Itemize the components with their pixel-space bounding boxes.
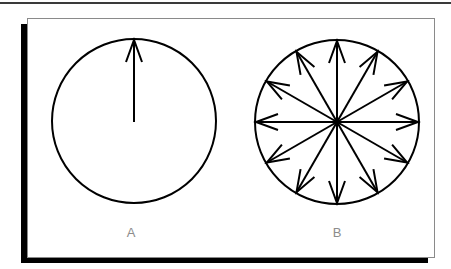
radial-arrow-icon bbox=[337, 114, 418, 130]
center-dot-b bbox=[334, 119, 340, 125]
diagram-canvas bbox=[0, 0, 451, 269]
radial-arrow-icon bbox=[337, 52, 378, 122]
radial-arrow-icon bbox=[329, 41, 345, 122]
radial-arrow-icon bbox=[256, 114, 337, 130]
radial-arrow-icon bbox=[267, 122, 337, 163]
panel-a bbox=[52, 39, 216, 203]
panel-a-label: A bbox=[127, 225, 136, 240]
arrow-up-icon bbox=[126, 40, 142, 122]
panel-a-arrows bbox=[126, 40, 142, 122]
radial-arrow-icon bbox=[297, 122, 338, 192]
panel-b-label: B bbox=[333, 225, 342, 240]
radial-arrow-icon bbox=[337, 122, 378, 192]
panel-b bbox=[255, 40, 419, 204]
radial-arrow-icon bbox=[337, 122, 407, 163]
radial-arrow-icon bbox=[297, 52, 338, 122]
radial-arrow-icon bbox=[267, 82, 337, 123]
radial-arrow-icon bbox=[337, 82, 407, 123]
radial-arrow-icon bbox=[329, 122, 345, 203]
